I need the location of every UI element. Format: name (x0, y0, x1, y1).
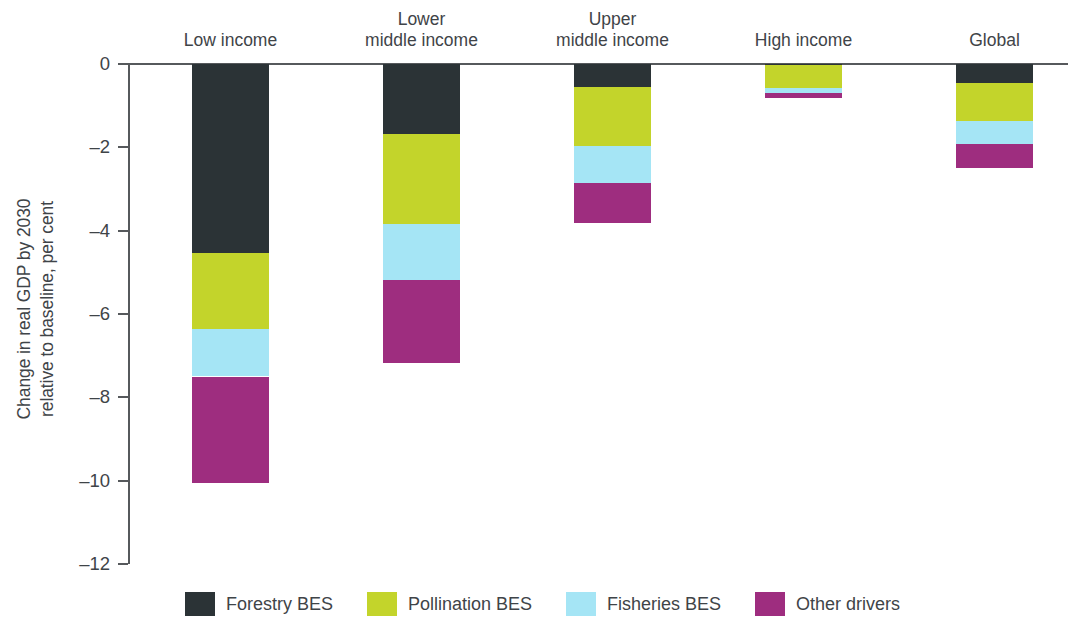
y-tick-label: –10 (52, 471, 110, 490)
y-tick-mark (118, 146, 128, 148)
legend-label: Forestry BES (226, 594, 333, 614)
bar-segment[interactable] (192, 253, 269, 330)
legend-item[interactable]: Forestry BES (185, 592, 333, 616)
chart-legend: Forestry BESPollination BESFisheries BES… (0, 592, 1085, 616)
bar-segment[interactable] (765, 65, 842, 88)
bar-segment[interactable] (383, 64, 460, 134)
bar-segment[interactable] (574, 64, 651, 87)
y-tick-label: 0 (52, 54, 110, 73)
legend-label: Pollination BES (408, 594, 532, 614)
y-tick-mark (118, 563, 128, 565)
category-label: Global (875, 30, 1085, 51)
bar-segment[interactable] (383, 134, 460, 224)
y-tick-label: –8 (52, 387, 110, 406)
y-tick-mark (118, 63, 128, 65)
bar-segment[interactable] (574, 183, 651, 223)
bar-segment[interactable] (956, 64, 1033, 83)
legend-swatch-icon (566, 592, 596, 616)
bar-segment[interactable] (574, 146, 651, 183)
legend-swatch-icon (367, 592, 397, 616)
bar-segment[interactable] (192, 329, 269, 376)
y-tick-mark (118, 396, 128, 398)
y-axis-spine (128, 64, 130, 564)
bar-segment[interactable] (192, 64, 269, 253)
bar-segment[interactable] (956, 121, 1033, 144)
y-tick-mark (118, 480, 128, 482)
legend-item[interactable]: Fisheries BES (566, 592, 721, 616)
legend-swatch-icon (755, 592, 785, 616)
bar-segment[interactable] (574, 87, 651, 146)
y-tick-mark (118, 230, 128, 232)
bar-segment[interactable] (192, 377, 269, 483)
plot-area: 0–2–4–6–8–10–12 (128, 64, 1068, 564)
legend-swatch-icon (185, 592, 215, 616)
bar-segment[interactable] (383, 280, 460, 363)
y-tick-label: –12 (52, 554, 110, 573)
bar-segment[interactable] (956, 83, 1033, 121)
y-tick-label: –2 (52, 137, 110, 156)
stacked-bar-chart: Change in real GDP by 2030 relative to b… (0, 0, 1085, 638)
y-tick-label: –6 (52, 304, 110, 323)
legend-item[interactable]: Other drivers (755, 592, 900, 616)
legend-label: Other drivers (796, 594, 900, 614)
y-axis-title-wrap: Change in real GDP by 2030 relative to b… (0, 0, 64, 600)
bar-segment[interactable] (956, 144, 1033, 168)
y-tick-label: –4 (52, 221, 110, 240)
legend-item[interactable]: Pollination BES (367, 592, 532, 616)
bar-segment[interactable] (765, 93, 842, 98)
bar-segment[interactable] (383, 224, 460, 279)
legend-label: Fisheries BES (607, 594, 721, 614)
y-tick-mark (118, 313, 128, 315)
